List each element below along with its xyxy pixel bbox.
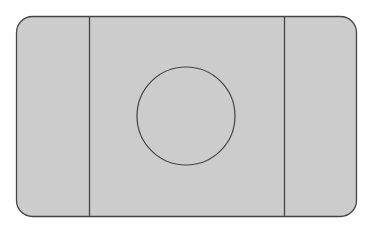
court-diagram [0, 0, 371, 231]
field-rectangle [17, 17, 357, 217]
